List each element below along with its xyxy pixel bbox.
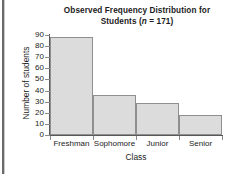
x-axis-category-label: Freshman <box>50 139 93 149</box>
y-axis-tick-label: 10 <box>18 120 44 128</box>
page-edge-shadow <box>4 0 5 174</box>
y-axis-tick-label: 70 <box>18 53 44 61</box>
y-axis-tick-label: 60 <box>18 64 44 72</box>
chart-title: Observed Frequency Distribution for Stud… <box>42 5 232 27</box>
x-axis-category-label: Junior <box>136 139 179 149</box>
y-axis-tick <box>45 35 50 36</box>
chart-title-line-2-suffix: = 171) <box>147 17 173 26</box>
y-axis-tick-label: 30 <box>18 98 44 106</box>
x-axis-category-label: Senior <box>179 139 222 149</box>
y-axis-tick-label: 0 <box>18 131 44 139</box>
chart-title-line-2-prefix: Students ( <box>101 17 142 26</box>
chart-title-line-1: Observed Frequency Distribution for <box>64 6 210 15</box>
y-axis-tick-label: 80 <box>18 42 44 50</box>
x-axis-category-label: Sophomore <box>93 139 136 149</box>
y-axis-tick-label: 50 <box>18 75 44 83</box>
bar <box>179 115 222 135</box>
y-axis-tick-label: 20 <box>18 109 44 117</box>
bar <box>136 103 179 135</box>
x-axis-tick <box>222 136 223 140</box>
y-axis-tick-label: 90 <box>18 31 44 39</box>
bar <box>93 95 136 135</box>
bar <box>50 37 93 135</box>
chart-figure: Observed Frequency Distribution for Stud… <box>0 0 247 174</box>
x-axis-title: Class <box>50 152 222 162</box>
y-axis-tick-label: 40 <box>18 87 44 95</box>
